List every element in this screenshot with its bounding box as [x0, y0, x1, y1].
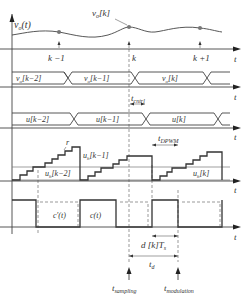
u-k-2: u[k−2] [26, 115, 49, 124]
time-axis-arrow-icon [233, 85, 241, 90]
axis-label-t: t [234, 232, 237, 242]
time-axis-arrow-icon [233, 126, 241, 131]
t-cntrl-label: tcntrl [131, 93, 145, 104]
axis-label-t: t [234, 54, 237, 64]
arrow-head-icon [129, 255, 133, 258]
c-label: c(t) [90, 211, 101, 220]
uh-k-label: uh[k] [193, 169, 209, 179]
carrier-c-prime-waveform [40, 202, 220, 227]
axis-label-t: t [234, 92, 237, 102]
tick-k-plus-1: k +1 [193, 53, 210, 63]
axis-label-t: t [234, 132, 237, 142]
t-sampling-label: tsampling [112, 283, 137, 294]
vo-estimate-k-2: vo[k−2] [16, 74, 41, 84]
time-axis-arrow-icon [233, 47, 241, 52]
c-prime-label: c′(t) [53, 211, 66, 220]
vo-estimate-k: vo[k] [162, 74, 178, 84]
u-k-1: u[k−1] [96, 115, 119, 124]
timing-diagram: vo(t) vo[k] k −1 k k +1 t vo[k−2] vo[k−1… [0, 0, 243, 296]
modulation-arrow-icon [176, 267, 181, 274]
time-axis-arrow-icon [233, 225, 241, 230]
arrow-head-icon [174, 235, 178, 238]
arrow-head-icon [152, 144, 156, 147]
axis-label-t: t [234, 185, 237, 195]
sample-point [127, 25, 131, 29]
t-modulation-label: tmodulation [164, 283, 194, 294]
vo-t-label: vo(t) [14, 19, 32, 31]
vo-signal-curve [12, 27, 222, 37]
vo-estimate-bus [12, 72, 230, 84]
dk-ts-label: d [k]Ts [141, 240, 167, 251]
uh-k-2-label: uh[k−2] [45, 169, 71, 179]
td-label: td [149, 259, 156, 270]
vo-estimate-k-1: vo[k−1] [84, 74, 109, 84]
vo-k-label: vo[k] [92, 8, 110, 19]
sample-tick-arrows [58, 41, 202, 48]
sample-point [57, 30, 61, 34]
arrow-head-icon [174, 255, 178, 258]
ramp-leader [64, 147, 66, 150]
t-dpwm-label: tDPWM [158, 133, 180, 144]
vo-k-leader [115, 19, 127, 25]
time-axis-arrow-icon [233, 179, 241, 184]
sampling-arrow-icon [127, 267, 132, 274]
carrier-c-waveform [12, 200, 222, 227]
arrow-head-icon [152, 235, 156, 238]
tick-k-minus-1: k −1 [48, 53, 65, 63]
sample-point [198, 26, 202, 30]
tick-k: k [132, 53, 137, 63]
staircase-waveform [12, 147, 222, 180]
u-k: u[k] [172, 115, 186, 124]
uh-k-1-label: uh[k−1] [83, 151, 109, 161]
ramp-label-r: r [66, 138, 70, 147]
